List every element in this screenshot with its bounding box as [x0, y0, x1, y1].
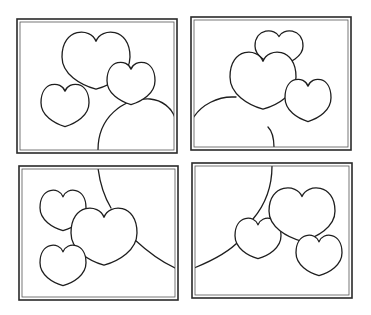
- right-heart-icon: [285, 79, 331, 121]
- arc-line: [98, 168, 111, 208]
- panel-top-right: [191, 17, 351, 150]
- bottom-left-heart-icon: [40, 245, 86, 285]
- left-heart-icon: [41, 84, 89, 126]
- panel-bottom-left: [19, 166, 178, 300]
- arc-line: [268, 127, 274, 148]
- panel-top-left: [17, 19, 177, 153]
- panel-bottom-right: [192, 163, 352, 298]
- arc-line: [98, 99, 175, 150]
- panel-artwork: [40, 168, 175, 286]
- coloring-page: [0, 0, 371, 315]
- panel-artwork: [194, 166, 342, 276]
- arc-line: [135, 240, 175, 268]
- right-heart-icon: [107, 62, 155, 104]
- arc-line: [193, 97, 236, 118]
- panel-artwork: [193, 31, 331, 148]
- panel-artwork: [41, 32, 175, 150]
- arc-line: [194, 240, 240, 268]
- right-heart-icon: [296, 235, 342, 275]
